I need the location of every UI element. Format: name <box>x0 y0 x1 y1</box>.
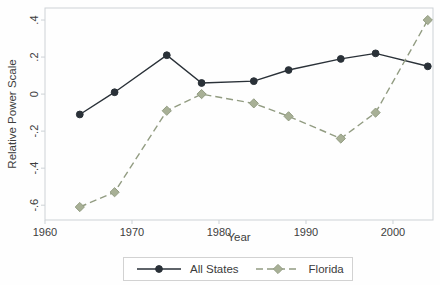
marker-circle-all-states <box>337 56 344 63</box>
y-tick-label: -.4 <box>28 162 40 175</box>
x-tick-label: 2000 <box>381 226 405 238</box>
all-states-line-sample <box>136 262 182 276</box>
florida-line-sample <box>255 262 301 276</box>
x-tick-label: 1990 <box>294 226 318 238</box>
series-florida <box>75 15 432 211</box>
plot-layer: 19601970198019902000.4.20-.2-.4-.6 <box>28 8 433 238</box>
y-tick-label: -.6 <box>28 199 40 212</box>
marker-circle-all-states <box>156 266 163 273</box>
marker-circle-all-states <box>76 111 83 118</box>
marker-circle-all-states <box>250 78 257 85</box>
marker-diamond-florida <box>162 106 171 115</box>
marker-diamond-florida <box>197 89 206 98</box>
marker-diamond-florida <box>273 264 282 273</box>
y-tick-label: .2 <box>28 52 40 61</box>
legend-label-florida: Florida <box>309 263 344 275</box>
marker-circle-all-states <box>372 50 379 57</box>
x-axis-title: Year <box>227 231 250 243</box>
marker-diamond-florida <box>75 202 84 211</box>
x-tick-label: 1960 <box>33 226 57 238</box>
marker-diamond-florida <box>249 99 258 108</box>
legend: All States Florida <box>123 257 353 281</box>
marker-diamond-florida <box>423 15 432 24</box>
marker-diamond-florida <box>110 188 119 197</box>
marker-circle-all-states <box>285 67 292 74</box>
y-tick-label: 0 <box>28 91 40 97</box>
marker-circle-all-states <box>163 52 170 59</box>
marker-circle-all-states <box>198 80 205 87</box>
x-tick-label: 1970 <box>120 226 144 238</box>
marker-diamond-florida <box>284 112 293 121</box>
y-tick-label: -.2 <box>28 125 40 138</box>
marker-circle-all-states <box>111 89 118 96</box>
y-axis-title: Relative Power Scale <box>6 59 18 168</box>
legend-label-all-states: All States <box>190 263 239 275</box>
chart-figure: 19601970198019902000.4.20-.2-.4-.6 Relat… <box>0 0 440 285</box>
marker-circle-all-states <box>424 63 431 70</box>
y-tick-label: .4 <box>28 15 40 24</box>
plot-svg: 19601970198019902000.4.20-.2-.4-.6 Relat… <box>0 0 440 285</box>
